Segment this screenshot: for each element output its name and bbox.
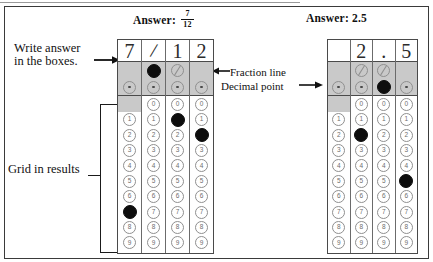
- digit-bubble-cell-5[interactable]: 5: [351, 174, 373, 189]
- decimal-point-bubble[interactable]: [123, 81, 136, 94]
- fraction-line-bubble-cell[interactable]: [166, 62, 189, 79]
- digit-bubble-1[interactable]: 1: [400, 113, 413, 126]
- digit-bubble-cell-4[interactable]: 4: [351, 158, 373, 173]
- digit-bubble-cell-2[interactable]: 2: [373, 127, 395, 142]
- digit-bubble-2[interactable]: 2: [195, 128, 209, 142]
- decimal-point-bubble-cell[interactable]: [166, 79, 189, 96]
- handwritten-answer-box[interactable]: /: [142, 40, 165, 62]
- digit-bubble-9[interactable]: 9: [355, 236, 368, 249]
- digit-bubble-5[interactable]: 5: [123, 175, 136, 188]
- digit-bubble-9[interactable]: 9: [377, 236, 390, 249]
- digit-bubble-3[interactable]: 3: [195, 144, 208, 157]
- digit-bubble-4[interactable]: 4: [171, 159, 184, 172]
- fraction-line-bubble-cell[interactable]: [142, 62, 165, 79]
- digit-bubble-cell-4[interactable]: 4: [190, 158, 213, 173]
- digit-bubble-cell-3[interactable]: 3: [328, 143, 350, 158]
- digit-bubble-cell-8[interactable]: 8: [396, 220, 418, 235]
- digit-bubble-4[interactable]: 4: [123, 159, 136, 172]
- digit-bubble-cell-5[interactable]: 5: [166, 174, 189, 189]
- digit-bubble-cell-9[interactable]: 9: [142, 235, 165, 250]
- digit-bubble-8[interactable]: 8: [332, 221, 345, 234]
- digit-bubble-cell-0[interactable]: 0: [142, 96, 165, 112]
- decimal-point-bubble-cell[interactable]: [328, 79, 350, 96]
- digit-bubble-6[interactable]: 6: [355, 190, 368, 203]
- digit-bubble-cell-7[interactable]: 7: [351, 204, 373, 219]
- digit-bubble-4[interactable]: 4: [195, 159, 208, 172]
- digit-bubble-0[interactable]: 0: [355, 98, 368, 111]
- digit-bubble-cell-2[interactable]: 2: [190, 127, 213, 142]
- decimal-point-bubble[interactable]: [147, 81, 160, 94]
- digit-bubble-cell-6[interactable]: 6: [190, 189, 213, 204]
- digit-bubble-3[interactable]: 3: [400, 144, 413, 157]
- digit-bubble-cell-1[interactable]: 1: [351, 112, 373, 127]
- digit-bubble-cell-7[interactable]: 7: [118, 204, 141, 219]
- fraction-line-bubble-cell[interactable]: [118, 62, 141, 79]
- handwritten-answer-box[interactable]: 2: [190, 40, 213, 62]
- digit-bubble-cell-3[interactable]: 3: [396, 143, 418, 158]
- digit-bubble-cell-5[interactable]: 5: [396, 174, 418, 189]
- digit-bubble-cell-4[interactable]: 4: [328, 158, 350, 173]
- digit-bubble-cell-3[interactable]: 3: [142, 143, 165, 158]
- digit-bubble-cell-6[interactable]: 6: [328, 189, 350, 204]
- digit-bubble-cell-8[interactable]: 8: [166, 220, 189, 235]
- digit-bubble-cell-3[interactable]: 3: [166, 143, 189, 158]
- digit-bubble-1[interactable]: 1: [147, 113, 160, 126]
- digit-bubble-cell-5[interactable]: 5: [328, 174, 350, 189]
- digit-bubble-cell-2[interactable]: 2: [142, 127, 165, 142]
- digit-bubble-cell-4[interactable]: 4: [142, 158, 165, 173]
- digit-bubble-cell-6[interactable]: 6: [351, 189, 373, 204]
- digit-bubble-6[interactable]: 6: [400, 190, 413, 203]
- digit-bubble-cell-6[interactable]: 6: [118, 189, 141, 204]
- decimal-point-bubble-cell[interactable]: [118, 79, 141, 96]
- digit-bubble-4[interactable]: 4: [332, 159, 345, 172]
- digit-bubble-cell-5[interactable]: 5: [118, 174, 141, 189]
- digit-bubble-cell-1[interactable]: 1: [373, 112, 395, 127]
- digit-bubble-0[interactable]: 0: [377, 98, 390, 111]
- digit-bubble-7[interactable]: 7: [332, 206, 345, 219]
- digit-bubble-7[interactable]: 7: [195, 206, 208, 219]
- decimal-point-bubble[interactable]: [377, 80, 391, 94]
- digit-bubble-cell-3[interactable]: 3: [190, 143, 213, 158]
- digit-bubble-2[interactable]: 2: [354, 128, 368, 142]
- digit-bubble-cell-7[interactable]: 7: [396, 204, 418, 219]
- digit-bubble-1[interactable]: 1: [332, 113, 345, 126]
- digit-bubble-9[interactable]: 9: [123, 236, 136, 249]
- digit-bubble-5[interactable]: 5: [355, 175, 368, 188]
- digit-bubble-cell-2[interactable]: 2: [351, 127, 373, 142]
- decimal-point-bubble-cell[interactable]: [373, 79, 395, 96]
- digit-bubble-7[interactable]: 7: [355, 206, 368, 219]
- digit-bubble-2[interactable]: 2: [332, 129, 345, 142]
- decimal-point-bubble[interactable]: [332, 81, 345, 94]
- digit-bubble-7[interactable]: 7: [147, 206, 160, 219]
- handwritten-answer-box[interactable]: 1: [166, 40, 189, 62]
- digit-bubble-cell-8[interactable]: 8: [373, 220, 395, 235]
- digit-bubble-8[interactable]: 8: [195, 221, 208, 234]
- digit-bubble-cell-9[interactable]: 9: [328, 235, 350, 250]
- digit-bubble-cell-4[interactable]: 4: [373, 158, 395, 173]
- digit-bubble-5[interactable]: 5: [399, 174, 413, 188]
- fraction-line-bubble[interactable]: [171, 64, 184, 77]
- digit-bubble-cell-0[interactable]: 0: [190, 96, 213, 112]
- digit-bubble-0[interactable]: 0: [195, 98, 208, 111]
- digit-bubble-cell-5[interactable]: 5: [190, 174, 213, 189]
- digit-bubble-6[interactable]: 6: [123, 190, 136, 203]
- handwritten-answer-box[interactable]: [328, 40, 350, 62]
- digit-bubble-8[interactable]: 8: [377, 221, 390, 234]
- digit-bubble-6[interactable]: 6: [332, 190, 345, 203]
- digit-bubble-0[interactable]: 0: [147, 98, 160, 111]
- digit-bubble-cell-9[interactable]: 9: [118, 235, 141, 250]
- digit-bubble-cell-7[interactable]: 7: [373, 204, 395, 219]
- digit-bubble-cell-2[interactable]: 2: [166, 127, 189, 142]
- digit-bubble-5[interactable]: 5: [195, 175, 208, 188]
- digit-bubble-cell-2[interactable]: 2: [118, 127, 141, 142]
- fraction-line-bubble-cell[interactable]: [396, 62, 418, 79]
- digit-bubble-2[interactable]: 2: [171, 129, 184, 142]
- digit-bubble-cell-0[interactable]: 0: [396, 96, 418, 112]
- digit-bubble-cell-6[interactable]: 6: [142, 189, 165, 204]
- digit-bubble-cell-9[interactable]: 9: [351, 235, 373, 250]
- digit-bubble-cell-4[interactable]: 4: [118, 158, 141, 173]
- digit-bubble-9[interactable]: 9: [332, 236, 345, 249]
- digit-bubble-7[interactable]: 7: [171, 206, 184, 219]
- digit-bubble-8[interactable]: 8: [147, 221, 160, 234]
- digit-bubble-3[interactable]: 3: [147, 144, 160, 157]
